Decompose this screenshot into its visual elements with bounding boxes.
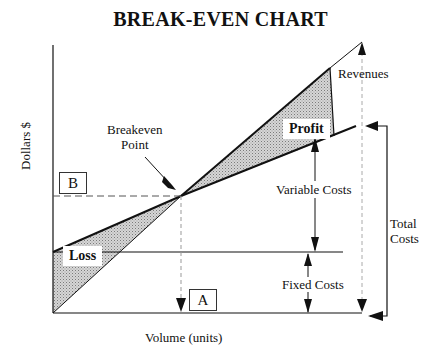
- fixed-costs-arrow-down-icon: [304, 299, 312, 313]
- variable-costs-label: Variable Costs: [276, 181, 351, 198]
- arrowhead-a-icon: [176, 298, 186, 312]
- revenues-arrow-down-icon: [357, 299, 367, 312]
- variable-costs-arrow-down-icon: [311, 237, 319, 252]
- total-costs-arrow-top-icon: [365, 121, 378, 131]
- revenue-line-tail: [330, 42, 362, 68]
- x-axis-label: Volume (units): [145, 330, 222, 345]
- total-costs-label: Total Costs: [390, 216, 419, 246]
- y-axis-label: Dollars $: [18, 122, 34, 170]
- fixed-costs-label: Fixed Costs: [282, 277, 344, 292]
- breakeven-label: Breakeven Point: [107, 122, 163, 152]
- profit-label: Profit: [283, 119, 330, 139]
- breakeven-pointer-head-icon: [162, 176, 176, 190]
- fixed-costs-arrow-up-icon: [304, 253, 312, 266]
- loss-label: Loss: [63, 246, 102, 266]
- total-costs-arrow-bottom-icon: [368, 311, 383, 321]
- revenues-label: Revenues: [338, 66, 389, 81]
- total-costs-bracket: [370, 126, 387, 316]
- marker-a: A: [189, 289, 217, 311]
- marker-b: B: [59, 172, 87, 194]
